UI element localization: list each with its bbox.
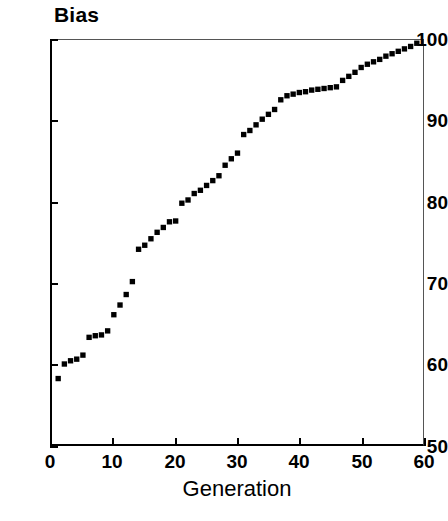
data-point (241, 132, 246, 137)
scatter-points-layer (52, 40, 423, 444)
data-point (173, 218, 178, 223)
data-point (352, 70, 357, 75)
data-point (315, 87, 320, 92)
data-point (56, 376, 61, 381)
data-point (216, 173, 221, 178)
xtick-label-50: 50 (332, 452, 392, 471)
data-point (340, 78, 345, 83)
data-point (346, 74, 351, 79)
data-point (297, 90, 302, 95)
xtick-label-40: 40 (269, 452, 329, 471)
xtick-label-60: 60 (394, 452, 448, 471)
data-point (235, 150, 240, 155)
data-point (80, 352, 85, 357)
data-point (210, 178, 215, 183)
data-point (192, 191, 197, 196)
chart-title: Bias (54, 4, 99, 25)
data-point (396, 49, 401, 54)
data-point (321, 86, 326, 91)
data-point (358, 65, 363, 70)
data-point (334, 84, 339, 89)
data-point (136, 247, 141, 252)
data-point (185, 197, 190, 202)
data-point (284, 93, 289, 98)
data-point (229, 156, 234, 161)
ytick-mark-50 (50, 446, 58, 448)
data-point (198, 188, 203, 193)
data-point (167, 219, 172, 224)
xtick-label-10: 10 (82, 452, 142, 471)
data-point (148, 236, 153, 241)
x-axis-title: Generation (50, 478, 424, 500)
data-point (247, 128, 252, 133)
data-point (328, 85, 333, 90)
data-point (290, 91, 295, 96)
data-point (414, 41, 419, 46)
xtick-label-30: 30 (207, 452, 267, 471)
data-point (117, 302, 122, 307)
scatter-series-0 (56, 41, 420, 382)
data-point (93, 333, 98, 338)
data-point (222, 163, 227, 168)
data-point (154, 230, 159, 235)
data-point (272, 107, 277, 112)
xtick-label-20: 20 (145, 452, 205, 471)
data-point (266, 112, 271, 117)
data-point (204, 183, 209, 188)
data-point (389, 51, 394, 56)
data-point (179, 201, 184, 206)
data-point (74, 356, 79, 361)
data-point (303, 89, 308, 94)
data-point (377, 57, 382, 62)
data-point (105, 328, 110, 333)
xtick-label-0: 0 (20, 452, 80, 471)
data-point (111, 312, 116, 317)
data-point (68, 358, 73, 363)
data-point (62, 361, 67, 366)
data-point (161, 225, 166, 230)
data-point (142, 243, 147, 248)
plot-area (50, 39, 424, 446)
data-point (365, 62, 370, 67)
data-point (408, 44, 413, 49)
data-point (130, 279, 135, 284)
data-point (99, 332, 104, 337)
data-point (402, 46, 407, 51)
data-point (253, 122, 258, 127)
data-point (371, 59, 376, 64)
data-point (383, 53, 388, 58)
xtick-mark-60 (424, 438, 426, 446)
data-point (124, 292, 129, 297)
chart-figure: Bias 100 90 80 70 60 50 0 10 20 30 40 50… (0, 0, 448, 521)
data-point (309, 87, 314, 92)
data-point (260, 117, 265, 122)
data-point (86, 335, 91, 340)
data-point (278, 97, 283, 102)
